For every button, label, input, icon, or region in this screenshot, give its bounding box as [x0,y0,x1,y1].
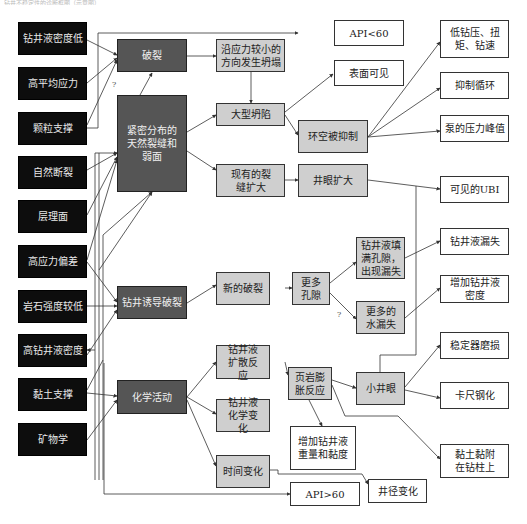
cause-label: 自然断裂 [33,166,73,179]
cause-label: 颗粒支撑 [33,122,73,135]
indicator-label: 卡尺钢化 [455,389,495,402]
mechanism-chemical-activity: 化学活动 [117,380,187,414]
process-time-change: 时间变化 [216,455,270,488]
cause-label: 岩石强度较低 [23,300,83,313]
indicator-label: 增加钻井液重量和黏度 [295,435,351,461]
process-label: 新的破裂 [223,282,263,295]
indicator-label: 抑制循环 [455,79,495,92]
indicator-api-lt-60: API<60 [334,20,404,46]
indicator-clay-on-drillstring: 黏土黏附在钻柱上 [440,444,509,478]
process-mud-fills-pores-loss: 钻井液填满孔隙，出现漏失 [356,237,405,279]
process-label: 小井眼 [366,382,396,395]
indicator-label: 泵的压力峰值 [445,122,505,135]
process-label: 时间变化 [223,465,263,478]
indicator-label: 井径变化 [378,485,418,498]
process-mud-diffusion-reaction: 钻井液扩散反应 [216,345,270,379]
mechanism-label: 紧密分布的天然裂缝和弱面 [126,124,178,163]
process-new-fracture: 新的破裂 [216,272,270,305]
process-label: 钻井液化学变化 [225,396,261,435]
indicator-restricted-circulation: 抑制循环 [440,72,509,99]
cause-mineralogy: 矿物学 [18,423,87,456]
process-label: 页岩膨胀反应 [293,371,327,397]
cause-bedding-plane: 层理面 [18,200,87,233]
process-label: 井眼扩大 [313,174,353,187]
process-mud-chemistry-change: 钻井液化学变化 [216,399,270,432]
process-label: 沿应力较小的方向发生坍塌 [220,43,281,69]
process-more-porosity: 更多孔隙 [292,272,330,305]
indicator-stabilizer-wear: 稳定器磨损 [440,332,509,359]
process-label: 更多的水漏失 [363,305,398,331]
indicator-label: 增加钻井液密度 [445,276,504,302]
process-more-water-loss: 更多的水漏失 [356,301,405,334]
cause-label: 高应力偏差 [28,255,78,268]
indicator-label: 低钻压、扭矩、钻速 [443,26,506,52]
process-collapse-min-stress: 沿应力较小的方向发生坍塌 [216,39,285,72]
process-label: 钻井液扩散反应 [225,343,261,382]
mechanism-drilling-induced-fracture: 钻井诱导破裂 [117,286,187,319]
process-shale-swelling: 页岩膨胀反应 [288,367,332,400]
process-label: 大型坍陷 [231,108,271,121]
indicator-api-gt-60: API>60 [290,482,360,506]
process-hole-enlargement: 井眼扩大 [298,164,368,197]
mechanism-label: 破裂 [142,49,162,62]
cause-label: 高平均应力 [28,77,78,90]
cause-high-stress-anisotropy: 高应力偏差 [18,245,87,278]
indicator-caliper-stiffening: 卡尺钢化 [440,382,509,409]
indicator-label: 可见的UBI [450,183,500,196]
mechanism-natural-fractures-weak-planes: 紧密分布的天然裂缝和弱面 [117,95,187,192]
process-label: 现有的裂缝扩大 [229,168,272,194]
cause-natural-fracture: 自然断裂 [18,156,87,189]
cause-low-rock-strength: 岩石强度较低 [18,290,87,323]
indicator-pump-pressure-spikes: 泵的压力峰值 [440,115,509,142]
process-tight-hole: 小井眼 [356,372,405,405]
uncertain-mark: ? [112,80,116,89]
cause-high-mud-density: 高钻井液密度 [18,334,87,367]
indicator-visible-ubi: 可见的UBI [440,176,509,203]
cause-label: 矿物学 [38,433,68,446]
indicator-low-wob-torque-rop: 低钻压、扭矩、钻速 [440,20,509,58]
indicator-label: API>60 [305,488,344,501]
indicator-label: 黏土黏附在钻柱上 [451,448,498,474]
cause-low-mud-density: 钻井液密度低 [18,22,87,55]
indicator-label: API<60 [349,27,388,40]
indicator-increase-mud-density: 增加钻井液密度 [440,275,509,303]
cause-high-mean-stress: 高平均应力 [18,67,87,100]
cause-label: 黏土支撑 [33,388,73,401]
process-existing-fracture-enlarge: 现有的裂缝扩大 [216,164,285,197]
cause-grain-support: 颗粒支撑 [18,112,87,145]
process-label: 环空被抑制 [308,130,358,143]
process-large-caving: 大型坍陷 [216,103,285,126]
indicator-label: 稳定器磨损 [450,339,500,352]
indicator-increase-mud-weight-viscosity: 增加钻井液重量和黏度 [290,426,356,470]
mechanism-label: 钻井诱导破裂 [122,296,182,309]
process-label: 钻井液填满孔隙，出现漏失 [359,239,402,278]
process-annulus-restricted: 环空被抑制 [298,120,368,153]
cause-label: 高钻井液密度 [23,344,83,357]
mechanism-label: 化学活动 [132,391,172,404]
indicator-hole-diameter-change: 井径变化 [368,479,427,503]
mechanism-breakout: 破裂 [117,39,187,72]
indicator-visible-at-surface: 表面可见 [334,60,404,86]
indicator-label: 表面可见 [349,67,389,80]
cause-label: 层理面 [38,210,68,223]
uncertain-mark: ? [337,310,341,319]
cause-label: 钻井液密度低 [23,32,83,45]
cause-clay-support: 黏土支撑 [18,378,87,411]
process-label: 更多孔隙 [299,276,323,302]
indicator-mud-loss: 钻井液漏失 [440,228,509,255]
indicator-label: 钻井液漏失 [450,235,500,248]
